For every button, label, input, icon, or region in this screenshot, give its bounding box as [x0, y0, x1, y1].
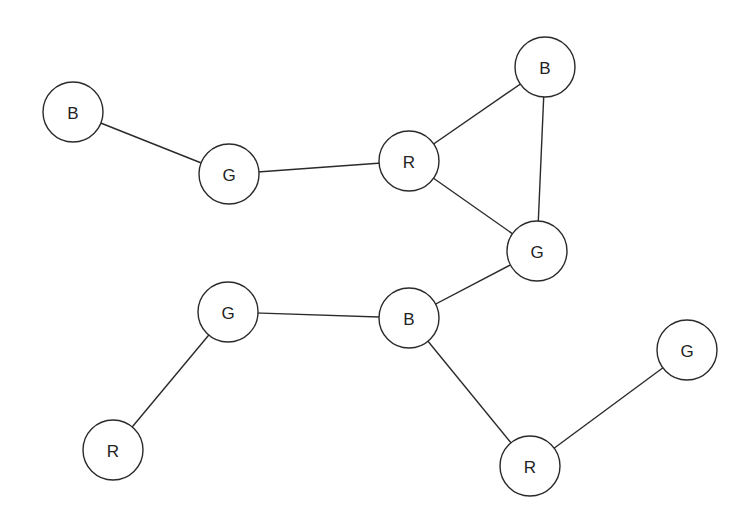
graph-node: G	[507, 221, 567, 281]
node-label: G	[221, 304, 234, 323]
node-label: G	[530, 243, 543, 262]
node-label: B	[539, 59, 550, 78]
graph-node: R	[379, 131, 439, 191]
edges-layer	[73, 67, 687, 466]
node-label: B	[67, 104, 78, 123]
graph-node: R	[500, 436, 560, 496]
graph-node: G	[199, 144, 259, 204]
graph-node: B	[379, 288, 439, 348]
node-label: B	[403, 310, 414, 329]
node-label: G	[680, 342, 693, 361]
graph-node: R	[83, 420, 143, 480]
graph-node: B	[515, 37, 575, 97]
node-label: R	[524, 458, 536, 477]
nodes-layer: BGRBGGBRGR	[43, 37, 717, 496]
graph-node: G	[657, 320, 717, 380]
node-label: G	[222, 166, 235, 185]
graph-node: B	[43, 82, 103, 142]
graph-node: G	[198, 282, 258, 342]
graph-diagram: BGRBGGBRGR	[0, 0, 751, 526]
node-label: R	[107, 442, 119, 461]
node-label: R	[403, 153, 415, 172]
